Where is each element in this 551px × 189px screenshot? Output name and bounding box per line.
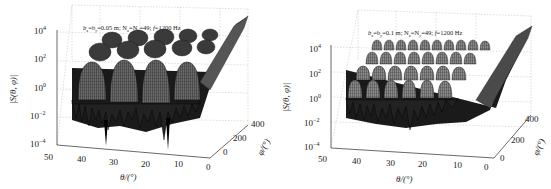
svg-text:30: 30 — [386, 158, 396, 168]
svg-text:20: 20 — [418, 159, 428, 169]
svg-text:40: 40 — [352, 156, 362, 166]
svg-text:200: 200 — [511, 135, 525, 145]
y-axis-label: φ/(°) — [531, 137, 547, 157]
svg-text:0: 0 — [206, 162, 211, 172]
surface-plot-left: bx=by=0.05 m; Nx=Ny=49; f=1200 Hz 104 10… — [0, 0, 275, 189]
svg-text:0: 0 — [500, 153, 505, 163]
x-axis-label: θ/(°) — [396, 174, 413, 184]
svg-text:100: 100 — [309, 93, 321, 104]
svg-text:100: 100 — [34, 82, 46, 93]
svg-text:0: 0 — [484, 162, 489, 172]
surface-mesh-left — [72, 16, 248, 150]
x-axis-ticks: 50 40 30 20 10 0 — [318, 154, 489, 172]
x-axis-label: θ/(°) — [120, 172, 137, 182]
svg-text:10: 10 — [174, 159, 184, 169]
svg-text:20: 20 — [141, 159, 151, 169]
svg-text:10−2: 10−2 — [30, 110, 45, 121]
svg-text:10: 10 — [453, 160, 463, 170]
svg-text:50: 50 — [318, 154, 328, 164]
svg-text:10−4: 10−4 — [30, 138, 45, 149]
svg-text:104: 104 — [34, 25, 46, 36]
svg-text:50: 50 — [44, 152, 54, 162]
svg-text:40: 40 — [77, 154, 87, 164]
y-axis-label: φ/(°) — [255, 137, 272, 157]
svg-text:0: 0 — [223, 147, 228, 157]
svg-text:102: 102 — [309, 68, 321, 79]
z-axis-ticks: 104 102 100 10−2 10−4 — [304, 43, 321, 152]
svg-text:30: 30 — [109, 157, 119, 167]
x-axis-ticks: 50 40 30 20 10 0 — [44, 152, 211, 172]
chart-panel-right: bx=by=0.1 m; Nx=Ny=49; f=1200 Hz 104 102… — [276, 0, 551, 189]
svg-text:104: 104 — [309, 43, 321, 54]
svg-text:10−4: 10−4 — [304, 141, 319, 152]
svg-text:400: 400 — [525, 114, 539, 124]
z-axis-label: |S(θ, φ)| — [281, 83, 291, 112]
chart-panel-left: bx=by=0.05 m; Nx=Ny=49; f=1200 Hz 104 10… — [0, 0, 275, 189]
svg-text:10−2: 10−2 — [304, 117, 319, 128]
svg-text:400: 400 — [251, 119, 265, 129]
z-axis-label: |S(θ, φ)| — [8, 75, 18, 104]
surface-plot-right: bx=by=0.1 m; Nx=Ny=49; f=1200 Hz 104 102… — [276, 0, 551, 189]
svg-text:200: 200 — [233, 133, 247, 143]
param-annotation: bx=by=0.1 m; Nx=Ny=49; f=1200 Hz — [368, 29, 463, 38]
surface-mesh-right — [346, 26, 532, 130]
y-axis-ticks: 0 200 400 — [500, 114, 539, 163]
svg-text:102: 102 — [34, 53, 46, 64]
z-axis-ticks: 104 102 100 10−2 10−4 — [30, 25, 46, 149]
